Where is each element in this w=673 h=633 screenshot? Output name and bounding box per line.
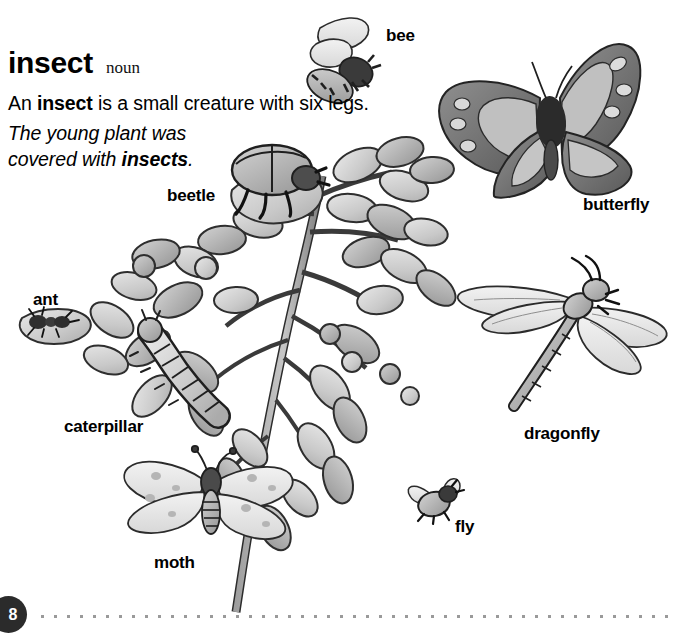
butterfly-illustration [439, 44, 640, 197]
label-caterpillar: caterpillar [64, 418, 143, 435]
label-butterfly: butterfly [583, 196, 649, 213]
plant-stem [214, 172, 398, 612]
example-line-1: The young plant was [8, 121, 428, 147]
ant-illustration [20, 307, 91, 344]
page-number: 8 [0, 607, 17, 623]
example-keyword: insects [122, 148, 189, 170]
moth-illustration [124, 446, 292, 539]
label-fly: fly [455, 518, 474, 535]
dragonfly-illustration [458, 256, 667, 406]
label-bee: bee [386, 27, 415, 44]
label-moth: moth [154, 554, 195, 571]
example-sentence: The young plant was covered with insects… [8, 121, 428, 173]
headword-row: insect noun [8, 48, 428, 78]
page-title: insect [8, 48, 93, 78]
footer-dotted-rule [36, 613, 673, 620]
page-number-badge: 8 [0, 596, 27, 633]
label-beetle: beetle [167, 187, 215, 204]
example-line-2: covered with insects. [8, 147, 428, 173]
example-suffix: . [188, 148, 193, 170]
definition-prefix: An [8, 92, 37, 114]
example-prefix: covered with [8, 148, 122, 170]
definition-text: An insect is a small creature with six l… [8, 91, 428, 117]
caterpillar-illustration [130, 310, 220, 416]
label-dragonfly: dragonfly [524, 425, 600, 442]
plant-leaves [80, 132, 462, 555]
part-of-speech: noun [106, 59, 140, 76]
definition-suffix: is a small creature with six legs. [93, 92, 369, 114]
definition-keyword: insect [37, 92, 93, 114]
label-ant: ant [33, 291, 58, 308]
dictionary-entry: insect noun An insect is a small creatur… [8, 48, 428, 173]
